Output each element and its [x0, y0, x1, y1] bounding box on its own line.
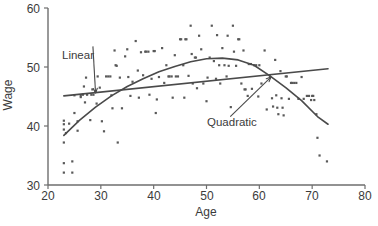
y-axis-title: Wage	[2, 75, 14, 115]
annotation-arrows	[93, 46, 271, 116]
y-tick-label-50: 50	[10, 62, 40, 74]
y-tick-label-40: 40	[10, 121, 40, 133]
x-tick-label-40: 40	[139, 190, 169, 202]
x-tick-label-60: 60	[244, 190, 274, 202]
x-tick-label-80: 80	[350, 190, 378, 202]
x-tick-label-30: 30	[86, 190, 116, 202]
wage-vs-age-scatter-figure: 60 50 40 30 20 30 40 50 60 70 80 Wage Ag…	[0, 0, 378, 226]
x-tick-label-70: 70	[297, 190, 327, 202]
linear-fit-line	[64, 69, 328, 96]
scatter-points-layer	[63, 25, 328, 174]
x-tick-label-50: 50	[192, 190, 222, 202]
x-axis-title: Age	[176, 206, 236, 218]
linear-annotation-label: Linear	[62, 50, 94, 62]
quadratic-annotation-label: Quadratic	[207, 117, 257, 129]
x-tick-label-20: 20	[33, 190, 63, 202]
axis-lines	[48, 8, 365, 185]
y-tick-label-60: 60	[10, 3, 40, 15]
quadratic-fit-curve	[64, 58, 328, 135]
